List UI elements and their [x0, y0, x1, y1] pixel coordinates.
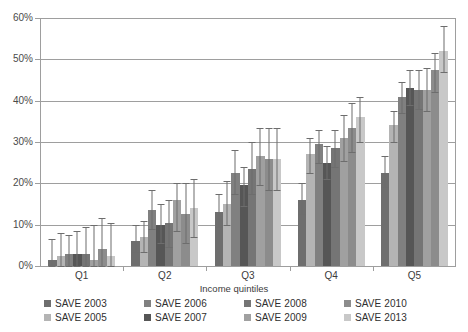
error-cap-upper: [215, 194, 222, 195]
error-bar: [52, 239, 53, 266]
bar-slot: [398, 18, 406, 266]
x-tick-mark: [290, 266, 291, 271]
legend-label: SAVE 2005: [55, 312, 107, 323]
error-cap-upper: [415, 70, 422, 71]
error-bar: [69, 235, 70, 266]
legend-label: SAVE 2006: [155, 298, 207, 309]
error-cap-upper: [315, 130, 322, 131]
y-tick-label: 30%: [2, 136, 33, 147]
error-bar: [110, 223, 111, 266]
bar-slot: [140, 18, 148, 266]
error-bar: [193, 179, 194, 237]
error-cap-lower: [440, 72, 447, 73]
error-cap-lower: [240, 206, 247, 207]
error-cap-lower: [99, 266, 106, 267]
bar: [431, 70, 439, 266]
legend-label: SAVE 2007: [155, 312, 207, 323]
error-cap-lower: [324, 179, 331, 180]
legend-item-save-2005[interactable]: SAVE 2005: [44, 310, 144, 324]
error-cap-lower: [299, 214, 306, 215]
error-cap-upper: [324, 146, 331, 147]
bar-slot: [215, 18, 223, 266]
error-bar: [160, 204, 161, 243]
legend-swatch-icon: [44, 314, 51, 321]
error-cap-upper: [440, 26, 447, 27]
error-cap-lower: [82, 266, 89, 267]
legend-label: SAVE 2003: [55, 298, 107, 309]
error-cap-lower: [174, 231, 181, 232]
legend-swatch-icon: [144, 314, 151, 321]
legend-item-save-2010[interactable]: SAVE 2010: [344, 296, 444, 310]
x-tick-label-q3: Q3: [206, 270, 289, 281]
legend-label: SAVE 2009: [255, 312, 307, 323]
bar-slot: [414, 18, 422, 266]
bar-slot: [173, 18, 181, 266]
y-tick-label: 40%: [2, 95, 33, 106]
error-cap-upper: [407, 70, 414, 71]
legend-swatch-icon: [44, 300, 51, 307]
error-cap-upper: [107, 223, 114, 224]
error-cap-upper: [190, 179, 197, 180]
legend-item-save-2009[interactable]: SAVE 2009: [244, 310, 344, 324]
error-cap-lower: [132, 252, 139, 253]
bar-slot: [340, 18, 348, 266]
error-cap-upper: [232, 150, 239, 151]
error-bar: [235, 150, 236, 193]
legend-item-save-2008[interactable]: SAVE 2008: [244, 296, 344, 310]
error-cap-upper: [332, 130, 339, 131]
bar-slot: [265, 18, 273, 266]
error-cap-upper: [307, 138, 314, 139]
bar-group-q5: [373, 18, 456, 266]
error-bar: [352, 103, 353, 153]
error-bar: [85, 227, 86, 266]
error-cap-upper: [257, 128, 264, 129]
error-bar: [426, 68, 427, 111]
error-cap-lower: [49, 266, 56, 267]
error-bar: [393, 111, 394, 142]
error-bar: [327, 146, 328, 179]
error-bar: [401, 82, 402, 113]
error-bar: [385, 156, 386, 187]
legend-label: SAVE 2010: [355, 298, 407, 309]
bar: [439, 51, 447, 266]
error-bar: [135, 225, 136, 252]
bar-slot: [323, 18, 331, 266]
error-bar: [152, 190, 153, 229]
bar-slot: [98, 18, 106, 266]
bar-slot: [223, 18, 231, 266]
error-bar: [310, 138, 311, 173]
bar-slot: [82, 18, 90, 266]
x-tick-label-q5: Q5: [373, 270, 456, 281]
bar-group-q4: [290, 18, 373, 266]
legend-item-save-2006[interactable]: SAVE 2006: [144, 296, 244, 310]
error-cap-lower: [66, 266, 73, 267]
error-cap-lower: [349, 152, 356, 153]
error-cap-upper: [398, 82, 405, 83]
error-bar: [318, 130, 319, 163]
bar-slot: [348, 18, 356, 266]
error-cap-lower: [165, 247, 172, 248]
error-cap-upper: [432, 53, 439, 54]
bar-slot: [107, 18, 115, 266]
error-cap-upper: [74, 231, 81, 232]
error-bar: [185, 183, 186, 243]
legend-item-save-2013[interactable]: SAVE 2013: [344, 310, 444, 324]
legend-item-save-2007[interactable]: SAVE 2007: [144, 310, 244, 324]
error-bar: [60, 233, 61, 266]
legend-label: SAVE 2008: [255, 298, 307, 309]
error-cap-upper: [91, 225, 98, 226]
bar: [423, 90, 431, 266]
error-cap-upper: [423, 68, 430, 69]
bar: [389, 125, 397, 266]
bar-chart: 0%10%20%30%40%50%60% Q1Q2Q3Q4Q5 Income q…: [0, 0, 468, 332]
legend-item-save-2003[interactable]: SAVE 2003: [44, 296, 144, 310]
x-tick-mark: [373, 266, 374, 271]
plot-area: [40, 18, 456, 266]
bar-slot: [273, 18, 281, 266]
bar-slot: [190, 18, 198, 266]
error-bar: [302, 183, 303, 214]
error-cap-lower: [149, 229, 156, 230]
error-bar: [335, 130, 336, 167]
bar-slot: [356, 18, 364, 266]
bar-slot: [156, 18, 164, 266]
